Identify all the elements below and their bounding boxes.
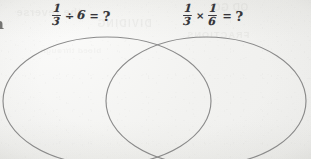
paper-shading — [0, 0, 311, 159]
clipped-edge-glyph-text: n — [0, 17, 4, 29]
division-operand-six: 6 — [77, 8, 86, 22]
fraction-numerator: 1 — [53, 3, 61, 14]
fraction-one-sixth: 1 6 — [208, 3, 219, 27]
multiplication-operator: × — [196, 11, 204, 21]
multiplication-answer-placeholder: ? — [236, 9, 244, 22]
fraction-numerator: 1 — [184, 3, 192, 14]
worksheet-page: the reverse DIVIDING FRACTIONS OD GO ble… — [0, 0, 311, 159]
fraction-one-third-division: 1 3 — [51, 3, 62, 27]
fraction-denominator: 6 — [208, 16, 216, 27]
division-equals-sign: = — [90, 10, 99, 21]
division-answer-placeholder: ? — [103, 9, 111, 22]
equation-division: 1 3 ÷ 6 = ? — [51, 3, 113, 27]
clipped-edge-glyph: n — [0, 17, 4, 29]
fraction-denominator: 3 — [183, 16, 191, 27]
equation-multiplication: 1 3 × 1 6 = ? — [182, 3, 246, 27]
fraction-numerator: 1 — [209, 3, 217, 14]
division-operator: ÷ — [65, 10, 74, 21]
fraction-denominator: 3 — [52, 16, 60, 27]
multiplication-equals-sign: = — [222, 10, 231, 21]
fraction-one-third-multiplication: 1 3 — [182, 3, 193, 27]
